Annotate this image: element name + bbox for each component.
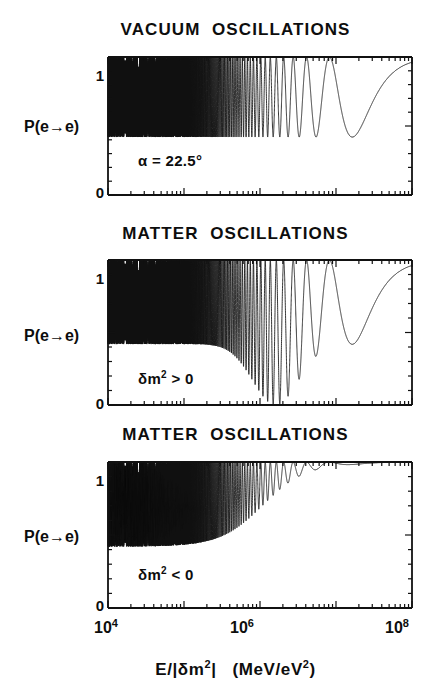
xtick-label-1e4: 104 — [94, 617, 118, 637]
plot-area-matter-negative — [108, 462, 412, 608]
xtick-label-1e6: 106 — [230, 617, 254, 637]
plot-area-vacuum — [108, 57, 412, 195]
panel-title-matter-positive: MATTER OSCILLATIONS — [0, 224, 435, 244]
ylabel-matter-positive: P(e→e) — [24, 327, 79, 345]
plot-svg-matter-negative — [108, 462, 412, 608]
plot-svg-vacuum — [108, 57, 412, 195]
panel-matter-negative: MATTER OSCILLATIONS 1 0 — [0, 425, 435, 625]
curve-matter-negative — [108, 462, 412, 547]
xtick-label-1e8: 108 — [385, 617, 409, 637]
annotation-alpha: α = 22.5° — [138, 152, 202, 169]
xaxis-label: E/|δm2| (MeV/eV2) — [0, 658, 435, 680]
ytick-top-matter-positive: 1 — [88, 270, 104, 287]
figure-root: VACUUM OSCILLATIONS 1 0 P(e→e) α = 22.5°… — [0, 0, 435, 697]
ylabel-vacuum: P(e→e) — [24, 118, 79, 136]
curve-vacuum — [108, 57, 412, 137]
ytick-top-vacuum: 1 — [88, 67, 104, 84]
ytick-top-matter-negative: 1 — [88, 472, 104, 489]
ytick-bottom-matter-negative: 0 — [88, 597, 104, 614]
annotation-deltam2-positive: δm2 > 0 — [138, 369, 194, 387]
panel-title-vacuum: VACUUM OSCILLATIONS — [0, 20, 435, 40]
ytick-bottom-vacuum: 0 — [88, 184, 104, 201]
ylabel-matter-negative: P(e→e) — [24, 528, 79, 546]
panel-matter-positive: MATTER OSCILLATIONS 1 0 — [0, 224, 435, 424]
annotation-deltam2-negative: δm2 < 0 — [138, 565, 194, 583]
ytick-bottom-matter-positive: 0 — [88, 395, 104, 412]
panel-title-matter-negative: MATTER OSCILLATIONS — [0, 425, 435, 445]
